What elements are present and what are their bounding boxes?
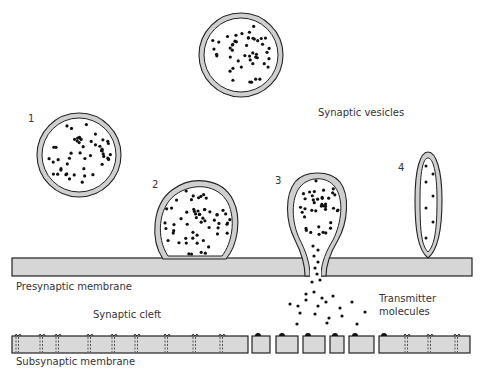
molecule-dot <box>318 278 321 281</box>
molecule-dot <box>363 310 366 313</box>
molecule-dot <box>303 207 306 210</box>
molecule-dot <box>48 157 51 160</box>
molecule-dot <box>225 223 228 226</box>
molecule-dot <box>312 254 315 257</box>
molecule-dot <box>215 53 218 56</box>
molecule-dot <box>205 196 208 199</box>
vesicle-2 <box>155 181 238 259</box>
molecule-dot <box>320 204 323 207</box>
molecule-dot <box>308 190 311 193</box>
molecule-dot <box>252 25 255 28</box>
membrane-segment <box>379 336 470 353</box>
molecule-dot <box>66 162 69 165</box>
molecule-dot <box>304 292 307 295</box>
molecule-dot <box>198 213 201 216</box>
molecule-dot <box>314 209 317 212</box>
stage-3-number: 3 <box>275 175 281 186</box>
molecule-dot <box>78 141 81 144</box>
molecule-dot <box>56 173 59 176</box>
membrane-segment <box>12 336 248 353</box>
molecule-dot <box>216 232 219 235</box>
molecule-dot <box>301 211 304 214</box>
molecule-dot <box>264 36 267 39</box>
molecule-dot <box>52 160 55 163</box>
molecule-dot <box>70 152 73 155</box>
molecule-dot <box>247 36 250 39</box>
molecule-dot <box>316 248 319 251</box>
molecule-dot <box>208 210 211 213</box>
molecule-dot <box>311 244 314 247</box>
molecule-dot <box>261 43 264 46</box>
molecule-dot <box>52 172 55 175</box>
molecule-dot <box>313 201 316 204</box>
membrane-segment <box>276 336 298 353</box>
molecule-dot <box>265 51 268 54</box>
molecule-dot <box>240 65 243 68</box>
molecule-dot <box>191 237 194 240</box>
molecule-dot <box>165 207 168 210</box>
molecule-dot <box>101 163 104 166</box>
bound-transmitter <box>255 333 261 336</box>
synapse-diagram: 1 2 3 4 Synaptic vesicles Presy <box>0 0 483 379</box>
molecule-dot <box>204 252 207 255</box>
molecule-dot <box>91 173 94 176</box>
molecule-dot <box>185 189 188 192</box>
molecule-dot <box>94 132 97 135</box>
molecule-dot <box>82 167 85 170</box>
molecule-dot <box>197 196 200 199</box>
molecule-dot <box>325 321 328 324</box>
molecule-dot <box>355 322 358 325</box>
molecule-dot <box>52 146 55 149</box>
molecule-dot <box>185 241 188 244</box>
subsynaptic-membrane <box>12 333 470 353</box>
molecule-dot <box>195 234 198 237</box>
molecule-dot <box>350 300 353 303</box>
molecule-dot <box>324 205 327 208</box>
molecule-dot <box>59 168 62 171</box>
molecule-dot <box>313 266 316 269</box>
stage-2-number: 2 <box>152 179 158 190</box>
molecule-dot <box>73 173 76 176</box>
molecule-dot <box>202 239 205 242</box>
molecule-dot <box>331 294 334 297</box>
molecule-dot <box>175 198 178 201</box>
molecule-dot <box>240 32 243 35</box>
vesicle-4 <box>415 152 442 258</box>
molecule-dot <box>196 242 199 245</box>
molecule-dot <box>288 302 291 305</box>
molecule-dot <box>172 223 175 226</box>
molecule-dot <box>260 37 263 40</box>
molecule-dot <box>324 231 327 234</box>
molecule-dot <box>243 54 246 57</box>
label-presynaptic-membrane: Presynaptic membrane <box>16 281 132 292</box>
molecule-dot <box>90 140 93 143</box>
molecule-dot <box>248 31 251 34</box>
molecule-dot <box>83 157 86 160</box>
molecule-dot <box>81 181 84 184</box>
molecule-dot <box>83 174 86 177</box>
molecule-dot <box>255 53 258 56</box>
molecule-dot <box>312 290 315 293</box>
molecule-dot <box>327 316 330 319</box>
molecule-dot <box>109 153 112 156</box>
molecule-dot <box>303 197 306 200</box>
molecule-dot <box>73 138 76 141</box>
molecule-dot <box>251 62 254 65</box>
molecule-dot <box>102 152 105 155</box>
molecule-dot <box>185 211 188 214</box>
bound-transmitter <box>332 333 338 336</box>
membrane-segment <box>349 336 374 353</box>
molecule-dot <box>324 300 327 303</box>
molecule-dot <box>68 157 71 160</box>
molecule-dot <box>70 127 73 130</box>
label-transmitter: Transmitter <box>378 293 437 304</box>
molecule-dot <box>94 143 97 146</box>
molecule-dot <box>310 280 313 283</box>
molecule-dot <box>233 40 236 43</box>
molecule-dot <box>203 208 206 211</box>
molecule-dot <box>316 304 319 307</box>
molecule-dot <box>313 190 316 193</box>
bound-transmitter <box>352 333 358 336</box>
stage-1-number: 1 <box>28 113 34 124</box>
molecule-dot <box>164 227 167 230</box>
